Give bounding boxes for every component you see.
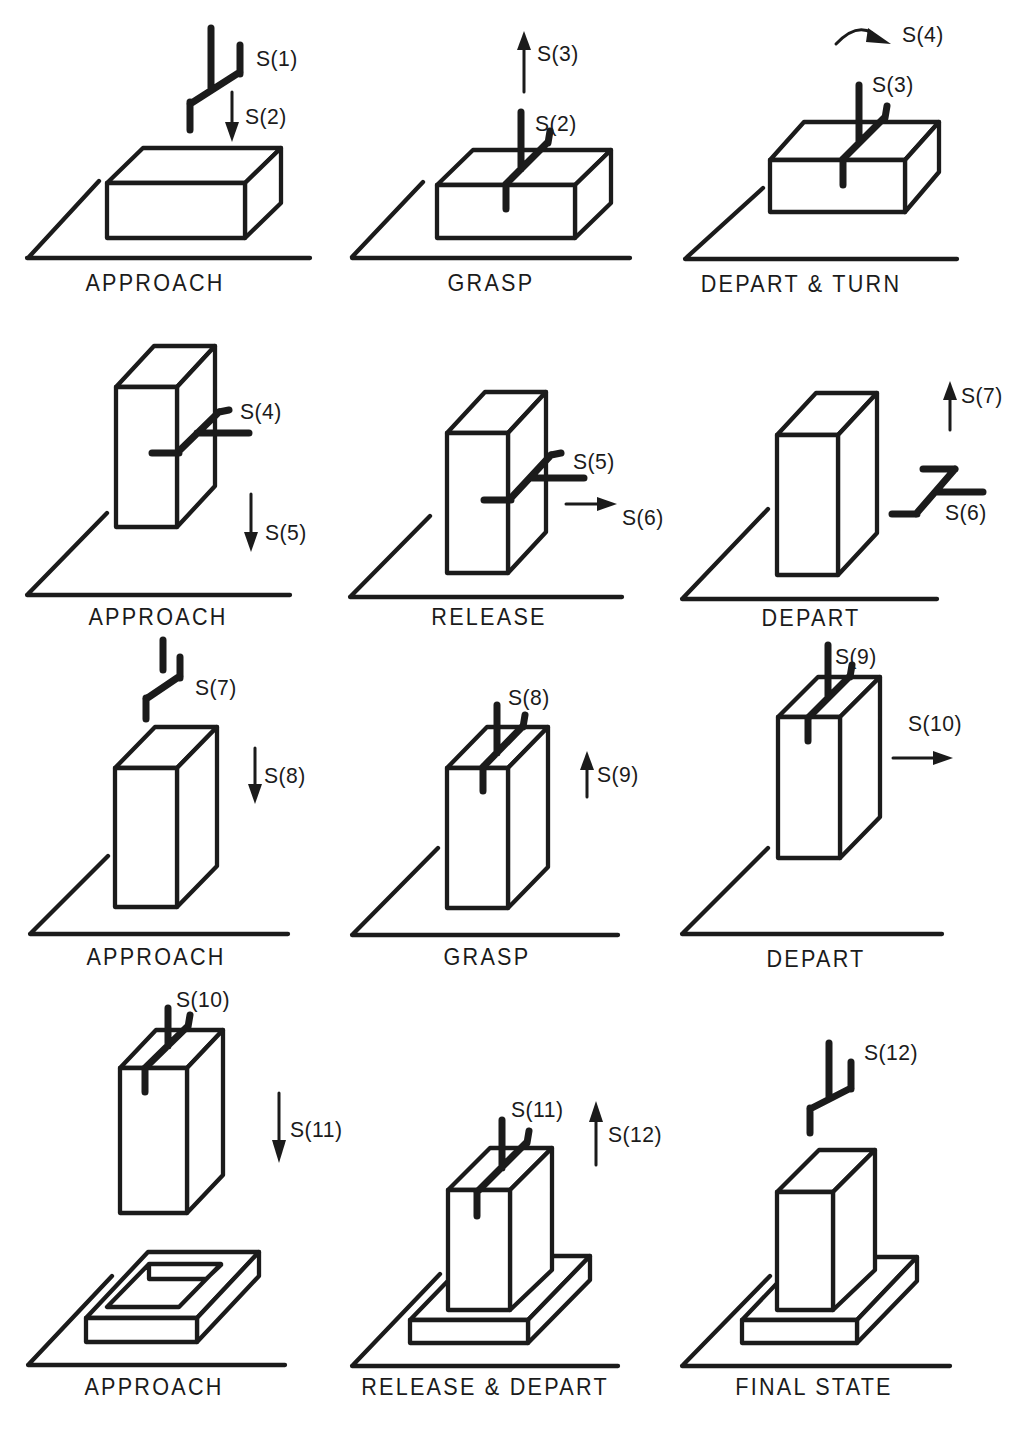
state-label: S(2) — [535, 113, 577, 135]
state-label: S(12) — [864, 1042, 918, 1064]
panel-caption: APPROACH — [86, 945, 225, 969]
state-label: S(5) — [265, 522, 307, 544]
panel-caption: GRASP — [444, 945, 531, 969]
panel-caption: GRASP — [448, 271, 535, 295]
state-label: S(6) — [945, 502, 987, 524]
state-label: S(8) — [264, 765, 306, 787]
state-label: S(3) — [537, 43, 579, 65]
state-label: S(9) — [835, 646, 877, 668]
panel-caption: RELEASE & DEPART — [361, 1375, 609, 1399]
state-label: S(3) — [872, 74, 914, 96]
state-label: S(8) — [508, 687, 550, 709]
state-label: S(11) — [290, 1119, 342, 1141]
state-label: S(12) — [608, 1124, 662, 1146]
state-label: S(2) — [245, 106, 287, 128]
state-label: S(4) — [902, 24, 944, 46]
panel-caption: DEPART & TURN — [701, 272, 901, 296]
panel-caption: DEPART — [761, 606, 860, 630]
panel-caption: APPROACH — [88, 605, 227, 629]
state-label: S(5) — [573, 451, 615, 473]
state-label: S(4) — [240, 401, 282, 423]
state-label: S(7) — [961, 385, 1003, 407]
figure: S(1) S(2) APPROACH S(2) S(3) GRASP S(3) … — [0, 0, 1026, 1434]
state-label: S(6) — [622, 507, 664, 529]
state-label: S(10) — [908, 713, 962, 735]
panel-caption: APPROACH — [84, 1375, 223, 1399]
panel-caption: RELEASE — [431, 605, 546, 629]
panel-caption: FINAL STATE — [735, 1375, 893, 1399]
state-label: S(9) — [597, 764, 639, 786]
panel-caption: APPROACH — [85, 271, 224, 295]
state-label: S(10) — [176, 989, 230, 1011]
state-label: S(11) — [511, 1099, 563, 1121]
panel-caption: DEPART — [766, 947, 865, 971]
state-label: S(1) — [256, 48, 298, 70]
state-label: S(7) — [195, 677, 237, 699]
